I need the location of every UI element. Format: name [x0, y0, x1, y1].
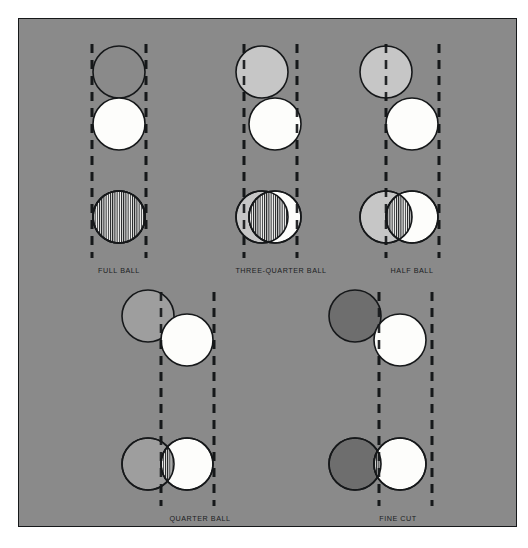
cue-ball-top	[249, 98, 301, 150]
object-ball-top	[236, 46, 288, 98]
object-ball-top	[93, 46, 145, 98]
panel-label-half-ball: HALF BALL	[391, 266, 434, 275]
diagram-stage: FULL BALLTHREE-QUARTER BALLHALF BALLQUAR…	[0, 0, 528, 548]
object-ball-top	[329, 290, 381, 342]
cue-ball-top	[386, 98, 438, 150]
panel-half-ball	[360, 44, 439, 258]
panel-label-full-ball: FULL BALL	[98, 266, 140, 275]
panel-three-quarter-ball	[236, 44, 301, 258]
panel-quarter-ball	[122, 290, 214, 506]
cue-ball-top	[374, 314, 426, 366]
object-ball-top	[360, 46, 412, 98]
panels-group	[92, 44, 439, 506]
panel-full-ball	[92, 44, 146, 258]
cue-ball-top	[161, 314, 213, 366]
panel-label-three-quarter-ball: THREE-QUARTER BALL	[235, 266, 326, 275]
panel-label-fine-cut: FINE CUT	[379, 514, 417, 523]
panel-label-quarter-ball: QUARTER BALL	[169, 514, 230, 523]
panel-fine-cut	[329, 290, 432, 506]
cue-ball-top	[93, 98, 145, 150]
